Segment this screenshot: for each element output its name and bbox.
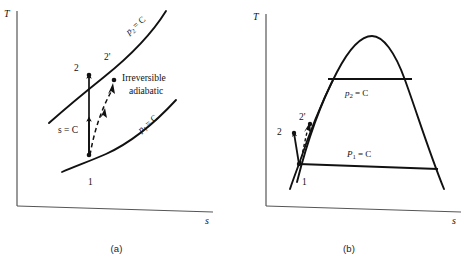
label-p1-subscript: 1	[353, 153, 356, 160]
label-p1-isobar: P1= C	[346, 149, 371, 160]
figure-ts-diagrams: T s p2= C p1= C s = C Irreversible adiab…	[0, 0, 465, 272]
panel-a: T s p2= C p1= C s = C Irreversible adiab…	[0, 0, 233, 272]
svg-text:p1= C: p1= C	[135, 112, 160, 136]
point-state-2-marker	[87, 73, 92, 78]
label-state-1: 1	[88, 177, 93, 187]
label-p2-isobar: p2= C	[344, 88, 368, 99]
label-p1-isobar: p1= C	[135, 112, 160, 136]
process-irreversible-adiabatic-path	[90, 92, 111, 155]
label-state-2: 2	[277, 127, 282, 137]
process-irreversible-arrowhead-end	[108, 83, 115, 94]
process-isentropic-arrow	[294, 133, 299, 164]
panel-b-axes	[266, 14, 461, 212]
label-state-2-prime: 2'	[104, 52, 111, 62]
point-state-1-marker	[87, 153, 92, 158]
caption-panel-b: (b)	[233, 243, 465, 254]
panel-b-drawing: T s p2= C P1= C 1 2 2'	[233, 0, 465, 240]
point-state-2prime-marker	[308, 122, 312, 126]
panel-b: T s p2= C P1= C 1 2 2' (b)	[233, 0, 465, 272]
label-state-2-prime: 2'	[299, 112, 306, 122]
label-p2-subscript: 2	[350, 92, 354, 99]
svg-text:p2= C: p2= C	[344, 88, 368, 99]
panel-a-axes	[17, 11, 213, 212]
label-irreversible-line1: Irreversible	[122, 73, 166, 83]
x-axis-line	[266, 206, 461, 212]
curve-p1-isobar	[299, 164, 438, 169]
label-isentropic: s = C	[58, 125, 78, 135]
curve-p2-isobar	[49, 11, 166, 123]
panel-a-drawing: T s p2= C p1= C s = C Irreversible adiab…	[0, 0, 233, 240]
curve-p1-isobar	[62, 100, 176, 172]
svg-text:p2= C: p2= C	[123, 14, 148, 38]
point-state-1-marker	[297, 162, 301, 166]
label-irreversible-line2: adiabatic	[129, 86, 163, 96]
y-axis-label: T	[253, 11, 260, 22]
label-state-2: 2	[74, 63, 79, 73]
label-p1-tail: = C	[358, 149, 371, 159]
x-axis-line	[17, 206, 213, 212]
process-irreversible-arrowhead	[100, 108, 107, 118]
label-p2-isobar: p2= C	[123, 14, 148, 38]
x-axis-label: s	[452, 215, 456, 226]
point-state-2prime-marker	[112, 78, 117, 83]
svg-text:P1= C: P1= C	[346, 149, 371, 160]
y-axis-label: T	[4, 8, 11, 19]
label-state-1: 1	[302, 177, 307, 187]
caption-panel-a: (a)	[0, 243, 233, 254]
point-state-2-marker	[292, 131, 296, 135]
label-p2-tail: = C	[355, 88, 368, 98]
x-axis-label: s	[205, 215, 209, 226]
